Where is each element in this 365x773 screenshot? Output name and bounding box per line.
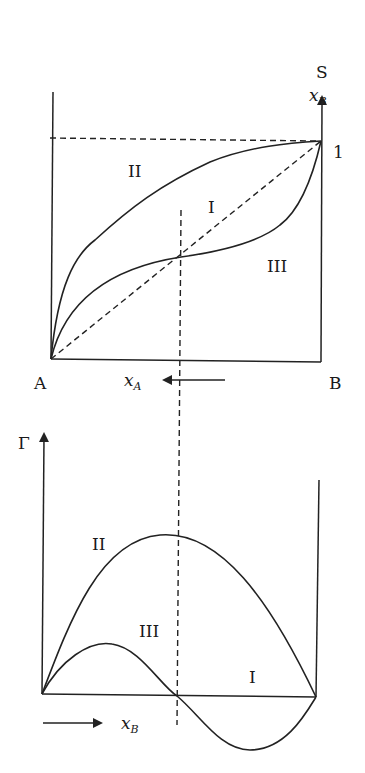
label-B: B	[329, 373, 342, 393]
curve-label-I: I	[249, 667, 256, 687]
bottom-panel: Γ II III I xB	[18, 433, 319, 750]
diagram-canvas: S xB 1 II I III A B xA Γ II III I xB	[0, 0, 365, 773]
bottom-axis	[51, 359, 321, 362]
vertical-dashed-line	[177, 210, 181, 725]
label-A: A	[33, 373, 47, 393]
xb-axis-arrow	[321, 100, 322, 362]
label-gamma: Γ	[18, 433, 30, 453]
top-panel: S xB 1 II I III A B xA	[33, 62, 344, 725]
curve-II	[42, 535, 316, 697]
label-S: S	[316, 62, 328, 82]
label-xB: xB	[309, 85, 327, 108]
region-label-I: I	[208, 197, 215, 217]
curve-label-II: II	[92, 534, 105, 554]
label-one: 1	[333, 142, 344, 162]
label-xB-bottom: xB	[121, 713, 139, 736]
right-boundary-line	[316, 480, 319, 697]
curve-label-III: III	[139, 621, 159, 641]
zero-line-I	[42, 694, 316, 697]
label-xA: xA	[124, 370, 142, 393]
left-axis	[51, 92, 53, 359]
region-label-III: III	[267, 256, 287, 276]
region-label-II: II	[128, 161, 141, 181]
unit-dashed-line	[50, 138, 320, 141]
gamma-axis-arrow	[42, 437, 44, 694]
